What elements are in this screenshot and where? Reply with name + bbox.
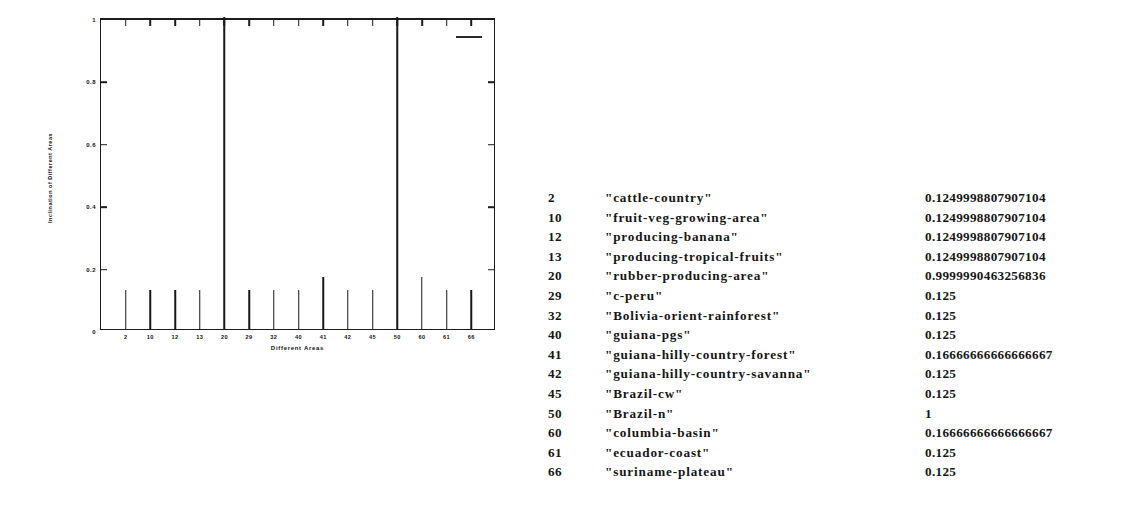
area-id: 13 — [548, 249, 605, 265]
table-row: 32"Bolivia-orient-rainforest"0.125 — [548, 308, 1053, 328]
table-row: 42"guiana-hilly-country-savanna"0.125 — [548, 366, 1053, 386]
area-name: "suriname-plateau" — [605, 464, 925, 480]
y-tick-mark — [101, 82, 107, 84]
y-tick-mark — [101, 269, 107, 271]
x-tick-label: 20 — [221, 334, 228, 340]
stem-bar — [421, 277, 423, 329]
y-tick-label: 0.2 — [86, 267, 96, 273]
y-tick-mark — [101, 206, 107, 208]
area-name: "columbia-basin" — [605, 425, 925, 441]
stem-bar — [347, 290, 349, 329]
x-tick-mark — [174, 20, 176, 26]
y-axis-title: Inclination of Different Areas — [47, 83, 53, 273]
table-row: 50"Brazil-n"1 — [548, 406, 1053, 426]
area-value: 0.1249998807907104 — [925, 190, 1046, 206]
x-tick-label: 40 — [295, 334, 302, 340]
stem-bar — [446, 290, 448, 329]
x-tick-label: 10 — [147, 334, 154, 340]
x-tick-label: 50 — [394, 334, 401, 340]
stem-bar — [298, 290, 300, 329]
area-id: 41 — [548, 347, 605, 363]
area-id: 20 — [548, 268, 605, 284]
area-name: "Bolivia-orient-rainforest" — [605, 308, 925, 324]
area-name: "guiana-pgs" — [605, 327, 925, 343]
plot-area: 00.20.40.60.81 2101213202932404142455060… — [100, 18, 495, 330]
area-value: 0.125 — [925, 445, 956, 461]
area-value: 0.125 — [925, 308, 956, 324]
y-tick-mark — [488, 269, 494, 271]
area-value: 0.125 — [925, 366, 956, 382]
x-tick-mark — [471, 20, 473, 26]
table-row: 60"columbia-basin"0.16666666666666667 — [548, 425, 1053, 445]
x-tick-label: 61 — [443, 334, 450, 340]
table-row: 61"ecuador-coast"0.125 — [548, 445, 1053, 465]
impulse-chart-figure: Inclination of Different Areas 00.20.40.… — [0, 0, 540, 380]
y-tick-mark — [488, 82, 494, 84]
table-row: 66"suriname-plateau"0.125 — [548, 464, 1053, 484]
y-tick-mark — [488, 144, 494, 146]
stem-bar — [471, 290, 473, 329]
x-tick-label: 42 — [344, 334, 351, 340]
x-tick-mark — [150, 20, 152, 26]
area-id: 42 — [548, 366, 605, 382]
area-value: 0.1249998807907104 — [925, 249, 1046, 265]
table-row: 41"guiana-hilly-country-forest"0.1666666… — [548, 347, 1053, 367]
area-name: "ecuador-coast" — [605, 445, 925, 461]
area-id: 50 — [548, 406, 605, 422]
stem-bar — [199, 290, 201, 329]
y-tick-label: 0.4 — [86, 204, 96, 210]
stem-bar — [372, 290, 374, 329]
x-tick-label: 12 — [172, 334, 179, 340]
table-row: 2"cattle-country"0.1249998807907104 — [548, 190, 1053, 210]
y-tick-mark — [101, 144, 107, 146]
area-name: "producing-tropical-fruits" — [605, 249, 925, 265]
table-row: 10"fruit-veg-growing-area"0.124999880790… — [548, 210, 1053, 230]
x-tick-mark — [421, 20, 423, 26]
area-name: "guiana-hilly-country-forest" — [605, 347, 925, 363]
x-tick-label: 29 — [246, 334, 253, 340]
x-tick-label: 13 — [196, 334, 203, 340]
area-name: "fruit-veg-growing-area" — [605, 210, 925, 226]
stem-bar — [273, 290, 275, 329]
area-value: 0.125 — [925, 327, 956, 343]
stem-bar — [248, 290, 250, 329]
y-tick-label: 0.6 — [86, 142, 96, 148]
x-tick-label: 32 — [270, 334, 277, 340]
area-id: 2 — [548, 190, 605, 206]
area-value: 0.1249998807907104 — [925, 229, 1046, 245]
x-tick-mark — [298, 20, 300, 26]
stem-bar — [322, 277, 324, 329]
table-row: 29"c-peru"0.125 — [548, 288, 1053, 308]
x-tick-mark — [372, 20, 374, 26]
area-name: "guiana-hilly-country-savanna" — [605, 366, 925, 382]
area-name: "rubber-producing-area" — [605, 268, 925, 284]
x-tick-mark — [347, 20, 349, 26]
area-value-table: 2"cattle-country"0.124999880790710410"fr… — [548, 190, 1053, 484]
x-tick-label: 66 — [468, 334, 475, 340]
stem-bar — [224, 17, 226, 329]
table-row: 45"Brazil-cw"0.125 — [548, 386, 1053, 406]
area-name: "cattle-country" — [605, 190, 925, 206]
area-value: 0.16666666666666667 — [925, 347, 1053, 363]
area-id: 45 — [548, 386, 605, 402]
area-name: "Brazil-n" — [605, 406, 925, 422]
area-value: 0.16666666666666667 — [925, 425, 1053, 441]
y-tick-label: 1 — [92, 17, 96, 23]
legend-line-marker — [456, 36, 482, 38]
area-name: "Brazil-cw" — [605, 386, 925, 402]
x-tick-mark — [125, 20, 127, 26]
x-axis-title: Different Areas — [100, 345, 495, 351]
area-value: 0.125 — [925, 386, 956, 402]
x-tick-mark — [446, 20, 448, 26]
area-id: 60 — [548, 425, 605, 441]
area-name: "producing-banana" — [605, 229, 925, 245]
y-tick-label: 0 — [92, 329, 96, 335]
x-tick-label: 2 — [124, 334, 128, 340]
x-tick-mark — [199, 20, 201, 26]
area-value: 0.125 — [925, 464, 956, 480]
stem-bar — [125, 290, 127, 329]
table-row: 20"rubber-producing-area"0.9999990463256… — [548, 268, 1053, 288]
x-tick-mark — [322, 20, 324, 26]
x-tick-mark — [273, 20, 275, 26]
area-id: 40 — [548, 327, 605, 343]
